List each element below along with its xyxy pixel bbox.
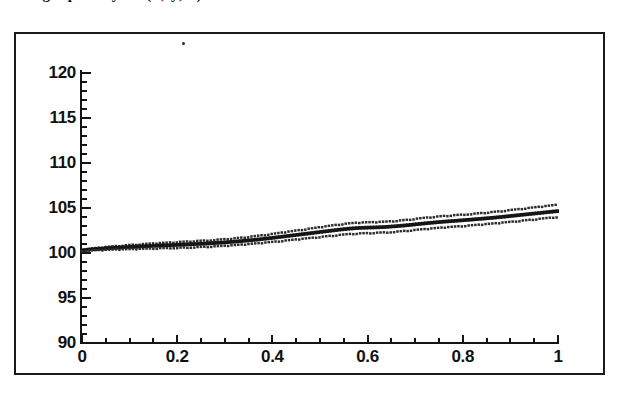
data-curves [16,34,607,377]
clipped-header-text-label: the graph of y = f(x, y, z) for the data [14,0,297,3]
clipped-header-text: the graph of y = f(x, y, z) for the data [0,0,624,16]
scan-speck [182,42,185,45]
curve-centre-line [80,209,559,252]
plot-area: 9095100105110115120 00.20.40.60.81 [16,34,607,377]
figure-frame: 9095100105110115120 00.20.40.60.81 [14,32,605,375]
curve-svg [16,34,607,377]
